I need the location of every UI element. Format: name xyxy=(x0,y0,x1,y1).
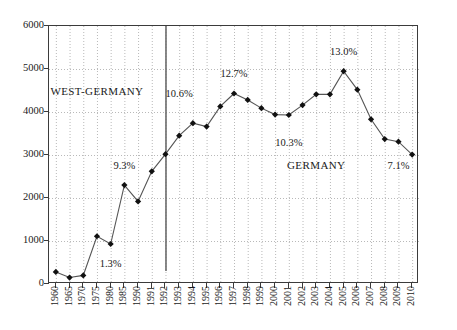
point-annotation: 10.6% xyxy=(166,88,193,99)
x-axis-tick-label: 2008 xyxy=(379,286,389,306)
x-axis-tick-label: 2010 xyxy=(406,286,416,306)
x-axis-tick-label: 1993 xyxy=(173,286,183,306)
point-annotation: 13.0% xyxy=(330,45,357,56)
y-axis-tick-marks xyxy=(0,25,49,283)
x-axis-tick-label: 2009 xyxy=(392,286,402,306)
x-axis-tick-label: 1996 xyxy=(214,286,224,306)
x-axis-tick-label: 1980 xyxy=(105,286,115,306)
x-axis-tick-label: 2001 xyxy=(283,286,293,306)
plot-area: 1.3%9.3%10.6%12.7%10.3%13.0%7.1%WEST-GER… xyxy=(48,25,418,283)
x-axis-tick-label: 1995 xyxy=(201,286,211,306)
annotations: 1.3%9.3%10.6%12.7%10.3%13.0%7.1%WEST-GER… xyxy=(49,26,417,282)
x-axis-tick-label: 2004 xyxy=(324,286,334,306)
x-axis-tick-label: 1965 xyxy=(64,286,74,306)
x-axis-tick-label: 2003 xyxy=(310,286,320,306)
x-axis-tick-label: 1960 xyxy=(50,286,60,306)
x-axis-tick-label: 1999 xyxy=(255,286,265,306)
x-axis-tick-label: 2006 xyxy=(351,286,361,306)
line-chart: 0100020003000400050006000 1.3%9.3%10.6%1… xyxy=(0,0,457,330)
x-axis-tick-label: 1992 xyxy=(159,286,169,306)
point-annotation: 1.3% xyxy=(100,257,122,268)
x-axis-tick-label: 1994 xyxy=(187,286,197,306)
point-annotation: 10.3% xyxy=(275,136,302,147)
x-axis-tick-label: 1998 xyxy=(242,286,252,306)
point-annotation: 12.7% xyxy=(220,67,247,78)
x-axis-tick-label: 1975 xyxy=(91,286,101,306)
x-axis-tick-label: 1970 xyxy=(77,286,87,306)
x-axis-tick-labels: 1960196519701975198019851990199119921993… xyxy=(48,286,418,330)
x-axis-tick-label: 2007 xyxy=(365,286,375,306)
x-axis-tick-label: 2002 xyxy=(297,286,307,306)
region-label: GERMANY xyxy=(287,159,345,171)
x-axis-tick-label: 1997 xyxy=(228,286,238,306)
x-axis-tick-label: 1991 xyxy=(146,286,156,306)
point-annotation: 7.1% xyxy=(388,160,410,171)
x-axis-tick-label: 1990 xyxy=(132,286,142,306)
region-label: WEST-GERMANY xyxy=(50,85,143,97)
x-axis-tick-label: 2000 xyxy=(269,286,279,306)
x-axis-tick-label: 1985 xyxy=(118,286,128,306)
x-axis-tick-label: 2005 xyxy=(338,286,348,306)
point-annotation: 9.3% xyxy=(113,159,135,170)
